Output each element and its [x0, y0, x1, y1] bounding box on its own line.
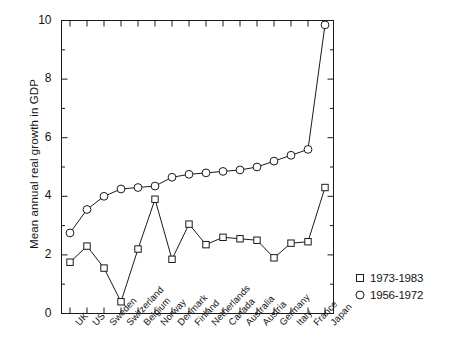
data-point [253, 163, 261, 171]
square-marker-icon [352, 270, 368, 286]
data-point [219, 168, 227, 176]
data-point [84, 243, 90, 249]
legend-label-1956-1972: 1956-1972 [370, 289, 423, 301]
data-point [305, 239, 311, 245]
data-point [254, 237, 260, 243]
data-point [271, 255, 277, 261]
legend-label-1973-1983: 1973-1983 [370, 272, 423, 284]
legend-item-1973-1983: 1973-1983 [352, 270, 423, 286]
legend-item-1956-1972: 1956-1972 [352, 287, 423, 303]
data-point [304, 146, 312, 154]
data-point [134, 184, 142, 192]
data-point [100, 192, 108, 200]
series-1973-1983 [67, 184, 328, 305]
data-point [169, 256, 175, 262]
data-point [288, 240, 294, 246]
data-point [83, 206, 91, 214]
data-point [67, 259, 73, 265]
circle-marker-icon [352, 287, 368, 303]
data-point [168, 173, 176, 181]
data-point [322, 184, 328, 190]
data-point [135, 246, 141, 252]
data-point [66, 229, 74, 237]
data-point [202, 169, 210, 177]
data-point [152, 196, 158, 202]
data-point [118, 299, 124, 305]
chart-figure: Mean annual real growth in GDP 0246810 U… [0, 0, 449, 362]
data-point [270, 157, 278, 165]
chart-legend: 1973-1983 1956-1972 [352, 270, 423, 304]
data-point [203, 241, 209, 247]
data-point [220, 234, 226, 240]
data-point [185, 170, 193, 178]
data-point [237, 236, 243, 242]
plot-area [0, 0, 449, 362]
series-1956-1972 [66, 21, 329, 237]
data-point [321, 21, 329, 29]
data-point [101, 265, 107, 271]
data-point [186, 221, 192, 227]
data-point [151, 182, 159, 190]
data-point [236, 166, 244, 174]
data-point [117, 185, 125, 193]
data-point [287, 151, 295, 159]
